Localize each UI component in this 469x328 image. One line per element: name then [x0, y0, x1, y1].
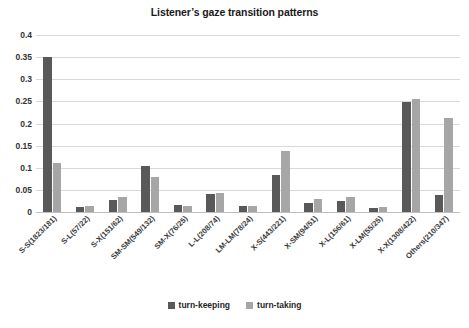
- bar-group: [297, 35, 330, 212]
- bar-group: [395, 35, 428, 212]
- bar-taking: [314, 199, 323, 212]
- bar-keeping: [402, 102, 411, 212]
- bar-keeping: [109, 200, 118, 212]
- x-axis: S-S(1823/181)S-L(57/22)S-X(151/62)SM-SM(…: [36, 212, 460, 302]
- bar-group: [36, 35, 69, 212]
- bar-keeping: [174, 205, 183, 212]
- legend-label: turn-taking: [257, 300, 301, 310]
- bar-keeping: [304, 203, 313, 212]
- y-axis-tick-label: 0.25: [0, 96, 32, 106]
- bar-taking: [118, 197, 127, 212]
- bar-group: [362, 35, 395, 212]
- y-axis-tick-label: 0.05: [0, 185, 32, 195]
- bar-keeping: [337, 201, 346, 212]
- y-axis-tick-label: 0.15: [0, 141, 32, 151]
- y-axis-tick-label: 0.2: [0, 119, 32, 129]
- chart-legend: turn-keepingturn-taking: [0, 300, 469, 310]
- bar-group: [69, 35, 102, 212]
- bar-group: [134, 35, 167, 212]
- bar-group: [330, 35, 363, 212]
- bar-group: [427, 35, 460, 212]
- bar-taking: [444, 118, 453, 212]
- legend-swatch-icon: [246, 302, 253, 309]
- bar-taking: [53, 163, 62, 212]
- bar-keeping: [206, 194, 215, 212]
- y-axis-tick-label: 0: [0, 207, 32, 217]
- bar-taking: [346, 197, 355, 212]
- bar-keeping: [272, 175, 281, 212]
- y-axis: 00.050.10.150.20.250.30.350.4: [0, 35, 32, 212]
- x-axis-tick-text: Others(210/347): [331, 214, 451, 328]
- bar-taking: [151, 177, 160, 212]
- x-axis-tick-label: Others(210/347): [331, 214, 451, 328]
- bar-taking: [216, 193, 225, 212]
- bar-group: [232, 35, 265, 212]
- bar-group: [199, 35, 232, 212]
- bar-taking: [412, 99, 421, 212]
- y-axis-tick-label: 0.1: [0, 163, 32, 173]
- plot-area: [36, 35, 460, 212]
- chart-title: Listener’s gaze transition patterns: [0, 6, 469, 18]
- legend-swatch-icon: [168, 302, 175, 309]
- legend-item[interactable]: turn-keeping: [168, 300, 230, 310]
- bar-taking: [281, 151, 290, 212]
- bars-layer: [36, 35, 460, 212]
- bar-chart: Listener’s gaze transition patterns 00.0…: [0, 0, 469, 328]
- y-axis-tick-label: 0.35: [0, 52, 32, 62]
- bar-keeping: [141, 166, 150, 212]
- y-axis-tick-label: 0.3: [0, 74, 32, 84]
- bar-group: [101, 35, 134, 212]
- bar-group: [166, 35, 199, 212]
- bar-keeping: [435, 195, 444, 212]
- y-axis-tick-label: 0.4: [0, 30, 32, 40]
- bar-group: [264, 35, 297, 212]
- bar-keeping: [43, 57, 52, 212]
- legend-label: turn-keeping: [179, 300, 230, 310]
- legend-item[interactable]: turn-taking: [246, 300, 301, 310]
